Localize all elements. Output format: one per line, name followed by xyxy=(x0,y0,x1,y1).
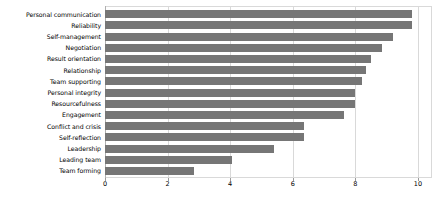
bar-row xyxy=(105,9,432,20)
bar xyxy=(105,55,371,63)
bar xyxy=(105,100,355,108)
category-label: Leadership xyxy=(0,143,101,154)
category-label: Result orientation xyxy=(0,53,101,64)
category-label: Relationship xyxy=(0,65,101,76)
tick-mark xyxy=(355,178,356,181)
category-axis-labels: Personal communicationReliabilitySelf-ma… xyxy=(0,6,101,178)
bar-row xyxy=(105,154,432,165)
bar-row xyxy=(105,31,432,42)
bar-row xyxy=(105,87,432,98)
bar xyxy=(105,122,304,130)
bar xyxy=(105,167,194,175)
bar-row xyxy=(105,165,432,176)
bar xyxy=(105,66,366,74)
category-label: Personal communication xyxy=(0,9,101,20)
bar-row xyxy=(105,76,432,87)
bar xyxy=(105,21,412,29)
bar xyxy=(105,10,412,18)
bar xyxy=(105,145,274,153)
value-tick-label: 6 xyxy=(291,180,295,189)
bars-layer xyxy=(105,6,432,178)
tick-mark xyxy=(293,178,294,181)
bar-row xyxy=(105,132,432,143)
category-label: Team supporting xyxy=(0,76,101,87)
category-label: Self-management xyxy=(0,31,101,42)
bar-row xyxy=(105,53,432,64)
bar xyxy=(105,77,362,85)
tick-mark xyxy=(418,178,419,181)
category-label: Engagement xyxy=(0,109,101,120)
category-label: Self-reflection xyxy=(0,132,101,143)
value-tick-label: 4 xyxy=(228,180,232,189)
bar-row xyxy=(105,143,432,154)
value-axis-tick-labels: 0246810 xyxy=(0,180,444,194)
bar xyxy=(105,156,232,164)
bar xyxy=(105,111,344,119)
category-label: Resourcefulness xyxy=(0,98,101,109)
category-label: Team forming xyxy=(0,165,101,176)
bar-row xyxy=(105,42,432,53)
bar-row xyxy=(105,121,432,132)
bar xyxy=(105,133,304,141)
tick-mark xyxy=(168,178,169,181)
tick-mark xyxy=(230,178,231,181)
category-label: Leading team xyxy=(0,154,101,165)
bar-chart: Personal communicationReliabilitySelf-ma… xyxy=(0,0,444,203)
value-tick-label: 8 xyxy=(353,180,357,189)
value-tick-label: 10 xyxy=(414,180,422,189)
tick-mark xyxy=(105,178,106,181)
bar xyxy=(105,44,382,52)
bar-row xyxy=(105,65,432,76)
bar-row xyxy=(105,109,432,120)
bar xyxy=(105,89,355,97)
value-tick-label: 0 xyxy=(103,180,107,189)
bar-row xyxy=(105,98,432,109)
category-label: Reliability xyxy=(0,20,101,31)
category-label: Negotiation xyxy=(0,42,101,53)
category-label: Personal integrity xyxy=(0,87,101,98)
value-tick-label: 2 xyxy=(166,180,170,189)
bar-row xyxy=(105,20,432,31)
bar xyxy=(105,33,393,41)
category-label: Conflict and crisis xyxy=(0,121,101,132)
